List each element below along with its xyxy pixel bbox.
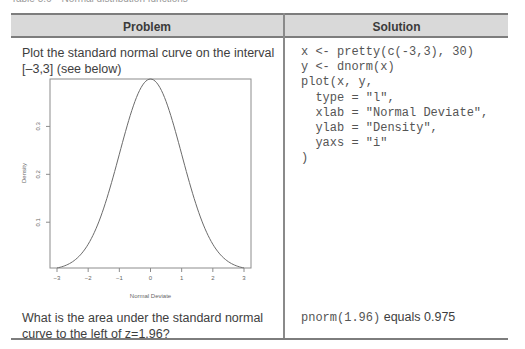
y-axis: 0.10.20.3: [35, 122, 50, 227]
y-tick-label: 0.2: [35, 169, 41, 178]
plot-frame: [50, 79, 251, 268]
density-curve: [57, 79, 244, 268]
x-tick-label: 3: [242, 275, 246, 281]
x-tick-label: −3: [54, 275, 62, 281]
normal-curve-plot: −3−2−10123 0.10.20.3 Normal Deviate Dens…: [0, 0, 525, 349]
x-axis-label: Normal Deviate: [130, 293, 172, 299]
y-axis-label: Density: [21, 163, 27, 183]
y-tick-label: 0.1: [35, 217, 41, 226]
x-tick-label: −2: [85, 275, 93, 281]
x-tick-label: 1: [180, 275, 184, 281]
x-tick-label: 0: [149, 275, 153, 281]
y-tick-label: 0.3: [35, 122, 41, 131]
x-tick-label: 2: [211, 275, 215, 281]
x-tick-label: −1: [116, 275, 124, 281]
x-axis: −3−2−10123: [54, 268, 247, 281]
